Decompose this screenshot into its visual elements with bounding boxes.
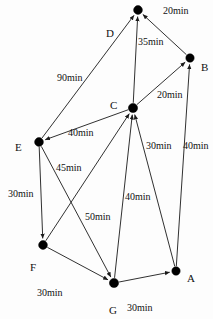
edge-weight-label-a-c: 30min: [146, 141, 172, 151]
graph-node-g[interactable]: [109, 278, 118, 287]
edge-weight-label-f-g: 30min: [37, 288, 63, 298]
graph-edge-e-f: [39, 147, 43, 238]
node-label-b: B: [201, 62, 208, 73]
graph-edge-f-g: [47, 247, 108, 279]
graph-node-c[interactable]: [128, 103, 137, 112]
node-label-d: D: [106, 28, 114, 39]
edge-weight-label-f-c: 50min: [85, 212, 111, 222]
edge-weight-label-c-e: 40min: [68, 128, 94, 138]
graph-diagram: 20min35min90min20min40min30min40min30min…: [0, 0, 213, 319]
edge-weight-label-g-a: 30min: [127, 303, 153, 313]
node-label-a: A: [187, 273, 195, 284]
node-label-f: F: [30, 262, 36, 273]
graph-node-e[interactable]: [35, 138, 44, 147]
edge-weight-label-a-b: 40min: [183, 141, 209, 151]
edge-weight-label-e-f: 30min: [8, 189, 34, 199]
graph-edge-c-d: [133, 17, 137, 103]
graph-edge-b-d: [143, 14, 187, 54]
node-label-c: C: [110, 100, 117, 111]
edge-weight-label-e-g: 45min: [56, 163, 82, 173]
graph-edge-e-d: [42, 15, 134, 138]
node-label-e: E: [15, 142, 22, 153]
graph-node-b[interactable]: [186, 54, 194, 62]
edge-weight-label-c-b: 20min: [157, 90, 183, 100]
edge-weight-label-e-d: 90min: [57, 73, 83, 83]
edge-weight-label-c-d: 35min: [138, 37, 164, 47]
edge-weight-label-g-c: 40min: [125, 192, 151, 202]
graph-node-a[interactable]: [172, 267, 180, 275]
graph-edge-g-a: [119, 272, 170, 282]
graph-node-d[interactable]: [134, 6, 143, 15]
node-label-g: G: [109, 305, 117, 316]
graph-node-f[interactable]: [39, 241, 48, 250]
edge-weight-label-b-d: 20min: [163, 6, 189, 16]
